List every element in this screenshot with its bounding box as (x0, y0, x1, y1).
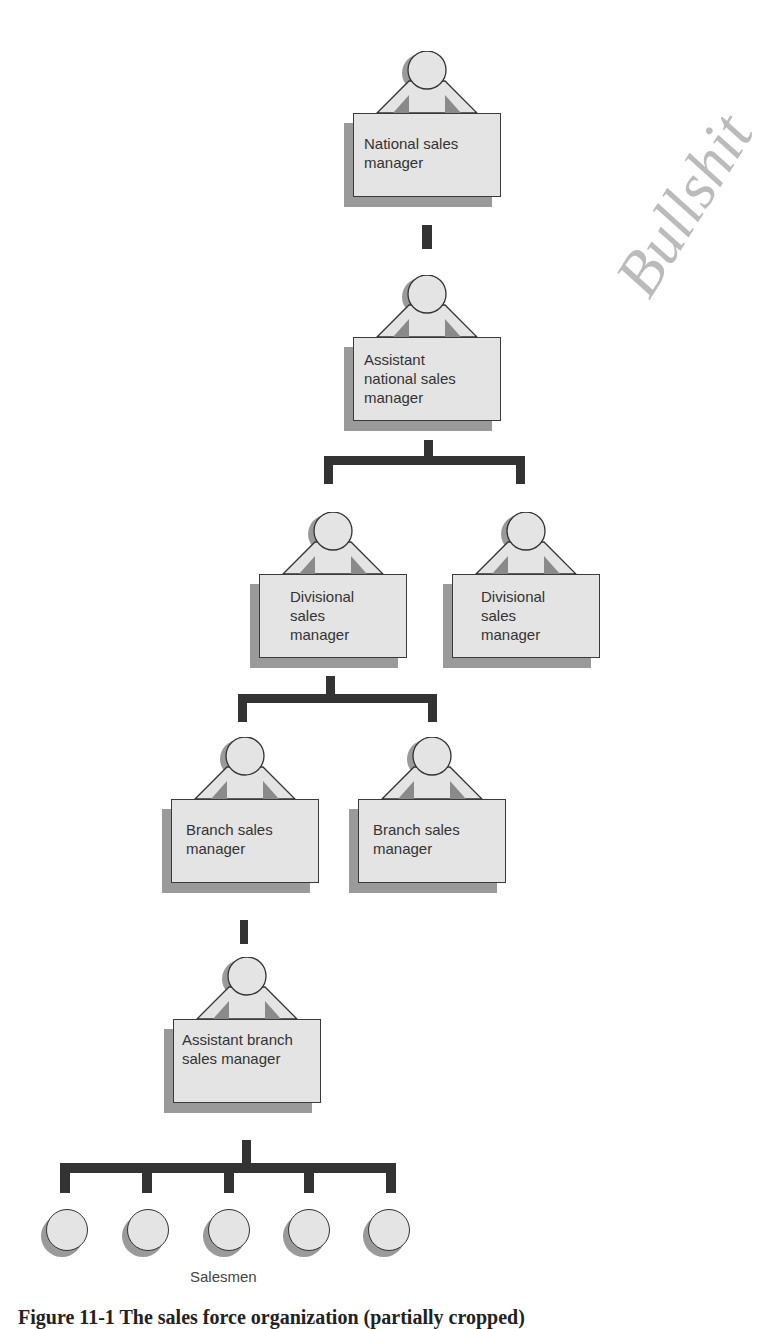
node-label: Branch sales manager (186, 820, 311, 858)
handwritten-note: Bullshit (600, 101, 759, 309)
node-assistant-national-sales-manager: Assistant national sales manager (353, 275, 503, 425)
title-box: Divisional sales manager (452, 574, 600, 658)
node-label: Branch sales manager (373, 820, 498, 858)
title-box: Divisional sales manager (259, 574, 407, 658)
node-branch-sales-manager-right: Branch sales manager (358, 737, 508, 887)
connector-line (238, 694, 247, 722)
connector-line (422, 225, 432, 249)
connector-line (324, 456, 333, 484)
person-icon (353, 275, 503, 345)
node-label: Divisional sales manager (481, 587, 571, 644)
person-icon (452, 512, 602, 582)
connector-line (60, 1163, 70, 1193)
figure-caption: Figure 11-1 The sales force organization… (18, 1306, 525, 1329)
node-label: Divisional sales manager (290, 587, 380, 644)
title-box: Assistant national sales manager (353, 337, 501, 421)
salesman-node (46, 1209, 88, 1251)
salesman-node (368, 1209, 410, 1251)
connector-line (324, 456, 525, 465)
person-icon (358, 737, 508, 807)
title-box: Assistant branch sales manager (173, 1019, 321, 1103)
connector-line (516, 456, 525, 484)
salesman-node (127, 1209, 169, 1251)
connector-line (386, 1163, 396, 1193)
node-label: Assistant national sales manager (364, 350, 474, 407)
salesmen-label: Salesmen (190, 1268, 257, 1285)
connector-line (304, 1163, 314, 1193)
person-icon (173, 957, 323, 1027)
node-divisional-sales-manager-left: Divisional sales manager (259, 512, 409, 662)
salesman-node (288, 1209, 330, 1251)
node-national-sales-manager: National sales manager (353, 51, 503, 201)
person-icon (171, 737, 321, 807)
connector-line (238, 694, 437, 703)
person-icon (259, 512, 409, 582)
title-box: National sales manager (353, 113, 501, 197)
node-assistant-branch-sales-manager: Assistant branch sales manager (173, 957, 323, 1107)
node-branch-sales-manager-left: Branch sales manager (171, 737, 321, 887)
person-icon (353, 51, 503, 121)
title-box: Branch sales manager (171, 799, 319, 883)
connector-line (428, 694, 437, 722)
connector-line (142, 1163, 152, 1193)
node-label: Assistant branch sales manager (182, 1030, 317, 1068)
connector-line (224, 1163, 234, 1193)
title-box: Branch sales manager (358, 799, 506, 883)
connector-line (240, 920, 248, 944)
node-divisional-sales-manager-right: Divisional sales manager (452, 512, 602, 662)
salesman-node (208, 1209, 250, 1251)
node-label: National sales manager (364, 134, 494, 172)
